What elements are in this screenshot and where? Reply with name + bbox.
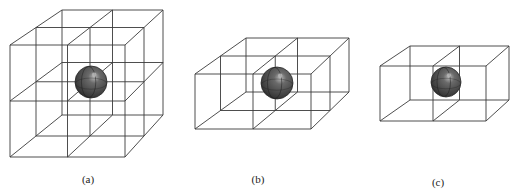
atom-sphere: [261, 67, 293, 99]
atom-sphere: [75, 66, 107, 98]
lattice-edge: [380, 100, 410, 121]
cube-panel-b: [195, 38, 349, 129]
lattice-edge: [380, 46, 410, 66]
cube-panel-c: [380, 46, 509, 121]
panel-label-a: (a): [82, 173, 94, 185]
lattice-edge: [486, 46, 509, 66]
lattice-edge: [433, 100, 460, 121]
cube-panel-a: [10, 10, 163, 157]
lattice-diagram: [0, 0, 516, 193]
lattice-edge: [433, 46, 460, 66]
atom-sphere: [431, 67, 461, 97]
lattice-edge: [486, 100, 509, 121]
panel-label-c: (c): [432, 176, 444, 188]
panel-label-b: (b): [252, 173, 265, 185]
